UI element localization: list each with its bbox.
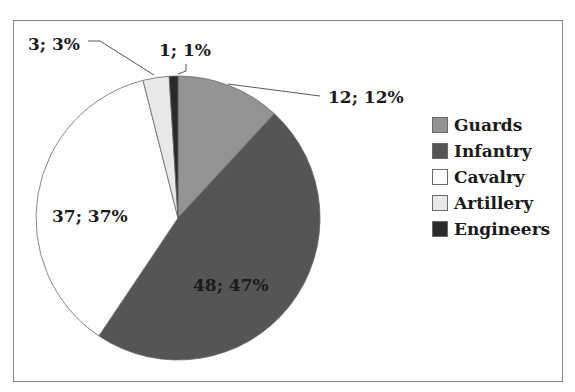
data-label-guards: 12; 12% [328, 87, 404, 107]
legend-item-guards: Guards [432, 112, 550, 138]
legend-label: Engineers [454, 219, 550, 239]
legend-item-engineers: Engineers [432, 216, 550, 242]
legend-item-cavalry: Cavalry [432, 164, 550, 190]
data-label-artillery: 3; 3% [28, 34, 80, 54]
legend-label: Infantry [454, 141, 532, 161]
leader-line-engineers [178, 64, 186, 74]
legend-item-infantry: Infantry [432, 138, 550, 164]
data-label-cavalry: 37; 37% [52, 206, 128, 226]
legend-label: Cavalry [454, 167, 525, 187]
legend-label: Artillery [454, 193, 533, 213]
legend-swatch [432, 221, 448, 237]
legend-swatch [432, 143, 448, 159]
data-label-engineers: 1; 1% [159, 40, 211, 60]
chart-legend: Guards Infantry Cavalry Artillery Engine… [432, 112, 550, 242]
leader-line-artillery [88, 41, 154, 75]
legend-swatch [432, 169, 448, 185]
legend-swatch [432, 195, 448, 211]
legend-swatch [432, 117, 448, 133]
legend-item-artillery: Artillery [432, 190, 550, 216]
data-label-infantry: 48; 47% [193, 275, 269, 295]
legend-label: Guards [454, 115, 522, 135]
